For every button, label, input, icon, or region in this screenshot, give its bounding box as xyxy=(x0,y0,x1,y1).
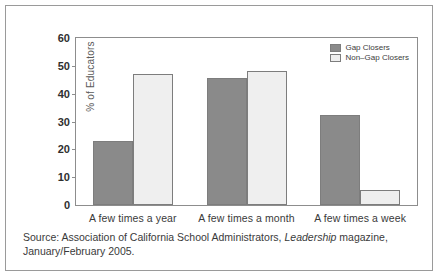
y-tick-label: 60 xyxy=(42,33,70,44)
y-tick-mark xyxy=(72,94,76,95)
bar xyxy=(360,190,400,205)
legend-item: Gap Closers xyxy=(330,44,409,52)
source-line1-suffix: magazine, xyxy=(336,231,387,243)
y-tick-label: 0 xyxy=(42,200,70,211)
y-tick-mark xyxy=(72,177,76,178)
y-tick-label: 10 xyxy=(42,172,70,183)
bar xyxy=(207,78,247,205)
bar xyxy=(133,74,173,205)
y-tick-label: 20 xyxy=(42,144,70,155)
source-line1-prefix: Source: Association of California School… xyxy=(23,231,284,243)
y-tick-label: 30 xyxy=(42,117,70,128)
source-note: Source: Association of California School… xyxy=(23,230,415,258)
chart-legend: Gap ClosersNon–Gap Closers xyxy=(330,44,409,62)
bar xyxy=(93,141,133,205)
y-tick-label: 50 xyxy=(42,61,70,72)
x-axis-label: A few times a year xyxy=(76,212,190,224)
legend-label: Gap Closers xyxy=(345,44,389,52)
y-tick-label: 40 xyxy=(42,89,70,100)
bar xyxy=(320,115,360,205)
x-axis-label: A few times a month xyxy=(190,212,304,224)
bar xyxy=(247,71,287,205)
legend-item: Non–Gap Closers xyxy=(330,54,409,62)
y-tick-mark xyxy=(72,122,76,123)
legend-swatch xyxy=(330,44,341,52)
y-tick-mark xyxy=(72,66,76,67)
y-axis-title: % of Educators xyxy=(85,17,96,137)
figure-container: % of Educators 0102030405060 A few times… xyxy=(5,5,433,271)
y-tick-mark xyxy=(72,149,76,150)
legend-label: Non–Gap Closers xyxy=(345,54,409,62)
plot-area: % of Educators 0102030405060 A few times… xyxy=(75,37,418,206)
x-axis-label: A few times a week xyxy=(303,212,417,224)
source-publication-name: Leadership xyxy=(284,231,336,243)
legend-swatch xyxy=(330,54,341,62)
source-line2: January/February 2005. xyxy=(23,245,134,257)
